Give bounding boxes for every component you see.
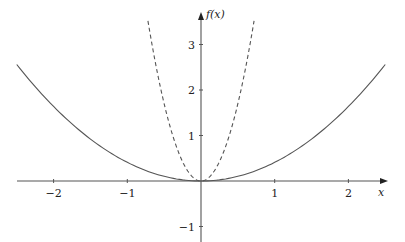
axes [17,12,388,242]
x-axis-arrow-icon [380,178,388,184]
x-tick-label: −1 [119,187,135,200]
y-tick-label: 3 [188,39,195,52]
y-tick-label: 2 [188,84,195,97]
y-tick-label: −1 [179,221,195,234]
x-axis-label: x [378,186,385,199]
y-tick-label: 1 [188,130,195,143]
x-tick-label: −2 [45,187,61,200]
ticks: −2−112−1123 [45,39,351,234]
y-axis-arrow-icon [198,12,204,20]
x-tick-label: 1 [271,187,278,200]
function-plot: −2−112−1123 x f(x) [0,0,405,242]
x-tick-label: 2 [345,187,352,200]
y-axis-label: f(x) [205,8,225,21]
